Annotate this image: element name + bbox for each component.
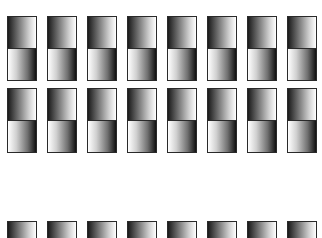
dark-to-light-gradient <box>8 222 36 238</box>
gradient-tile <box>207 16 237 81</box>
light-to-dark-gradient <box>288 49 316 81</box>
light-to-dark-gradient <box>248 49 276 81</box>
dark-to-light-gradient <box>208 89 236 121</box>
gradient-tile <box>87 221 117 238</box>
dark-to-light-gradient <box>168 222 196 238</box>
gradient-tile <box>247 16 277 81</box>
dark-to-light-gradient <box>248 222 276 238</box>
dark-to-light-gradient <box>168 89 196 121</box>
dark-to-light-gradient <box>128 222 156 238</box>
dark-to-light-gradient <box>248 17 276 49</box>
gradient-tile <box>127 16 157 81</box>
light-to-dark-gradient <box>168 49 196 81</box>
light-to-dark-gradient <box>208 49 236 81</box>
dark-to-light-gradient <box>288 17 316 49</box>
light-to-dark-gradient <box>128 121 156 153</box>
dark-to-light-gradient <box>168 17 196 49</box>
gradient-tile <box>247 88 277 153</box>
dark-to-light-gradient <box>88 222 116 238</box>
light-to-dark-gradient <box>48 49 76 81</box>
dark-to-light-gradient <box>288 89 316 121</box>
dark-to-light-gradient <box>88 17 116 49</box>
dark-to-light-gradient <box>248 89 276 121</box>
gradient-tile <box>87 88 117 153</box>
gradient-tile <box>127 88 157 153</box>
gradient-tile <box>207 221 237 238</box>
dark-to-light-gradient <box>128 17 156 49</box>
light-to-dark-gradient <box>48 121 76 153</box>
dark-to-light-gradient <box>48 222 76 238</box>
gradient-tile <box>167 16 197 81</box>
dark-to-light-gradient <box>208 17 236 49</box>
dark-to-light-gradient <box>48 89 76 121</box>
dark-to-light-gradient <box>48 17 76 49</box>
gradient-tile <box>287 16 317 81</box>
gradient-tile <box>127 221 157 238</box>
light-to-dark-gradient <box>8 49 36 81</box>
gradient-tile <box>87 16 117 81</box>
gradient-tile <box>7 16 37 81</box>
gradient-tile <box>287 221 317 238</box>
dark-to-light-gradient <box>8 89 36 121</box>
gradient-tile <box>167 221 197 238</box>
dark-to-light-gradient <box>288 222 316 238</box>
gradient-tile <box>167 88 197 153</box>
gradient-tile <box>207 88 237 153</box>
light-to-dark-gradient <box>8 121 36 153</box>
light-to-dark-gradient <box>248 121 276 153</box>
gradient-tile <box>247 221 277 238</box>
dark-to-light-gradient <box>88 89 116 121</box>
dark-to-light-gradient <box>128 89 156 121</box>
light-to-dark-gradient <box>208 121 236 153</box>
dark-to-light-gradient <box>208 222 236 238</box>
gradient-tile <box>287 88 317 153</box>
gradient-tile <box>47 16 77 81</box>
light-to-dark-gradient <box>128 49 156 81</box>
light-to-dark-gradient <box>88 49 116 81</box>
dark-to-light-gradient <box>8 17 36 49</box>
gradient-tile <box>47 221 77 238</box>
light-to-dark-gradient <box>168 121 196 153</box>
gradient-tile <box>7 88 37 153</box>
gradient-tile <box>47 88 77 153</box>
light-to-dark-gradient <box>288 121 316 153</box>
light-to-dark-gradient <box>88 121 116 153</box>
gradient-tile <box>7 221 37 238</box>
